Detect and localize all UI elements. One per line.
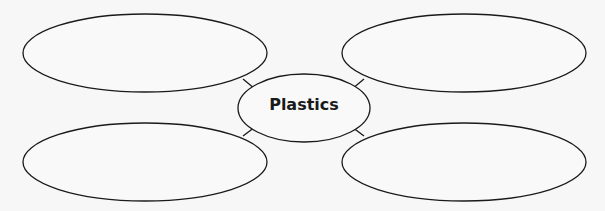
- node-top-left[interactable]: [23, 14, 267, 92]
- node-bottom-right[interactable]: [342, 123, 586, 201]
- node-top-right[interactable]: [342, 14, 586, 92]
- center-node-label: Plastics: [238, 93, 370, 117]
- node-bottom-left[interactable]: [23, 123, 267, 201]
